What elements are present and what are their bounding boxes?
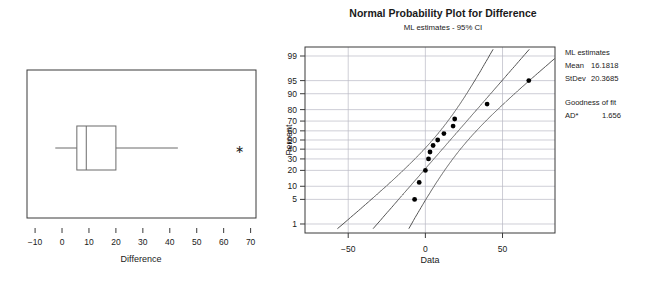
boxplot-outlier-marker: ∗ — [235, 143, 244, 155]
probplot-x-ticks — [348, 233, 502, 238]
legend-heading: ML estimates — [565, 48, 610, 57]
probplot-legend: ML estimates Mean 16.1818 StDev 20.3685 … — [565, 48, 621, 120]
probplot-y-tick-label: 20 — [288, 165, 298, 175]
probplot-data-point — [431, 143, 436, 148]
legend-mean-label: Mean — [565, 61, 584, 70]
probplot-y-tick-label: 10 — [288, 181, 298, 191]
probplot-gridlines — [305, 47, 555, 233]
probplot-data-point — [451, 124, 456, 129]
probplot-y-tick-label: 5 — [292, 194, 297, 204]
probplot-data-point — [485, 102, 490, 107]
probplot-data-point — [426, 157, 431, 162]
probplot-fit-curves — [337, 49, 554, 228]
probplot-data-point — [412, 197, 417, 202]
probplot-y-ticks — [300, 56, 305, 224]
boxplot-axis-title: Difference — [121, 254, 162, 264]
legend-stdev-value: 20.3685 — [591, 74, 618, 83]
probplot-x-tick-label: 0 — [423, 244, 428, 254]
probplot-y-tick-label: 80 — [288, 105, 298, 115]
probplot-data-point — [442, 131, 447, 136]
plot-subtitle: ML estimates - 95% CI — [404, 23, 483, 32]
probability-plot-panel: Normal Probability Plot for Difference M… — [280, 0, 657, 290]
statistics-figure: −10010203040506070 ∗ Difference Normal P… — [0, 0, 657, 290]
probplot-y-tick-label: 1 — [292, 219, 297, 229]
probplot-y-tick-label: 99 — [288, 51, 298, 61]
probplot-ci-upper — [409, 59, 555, 229]
boxplot-tick-label: 40 — [165, 237, 175, 247]
boxplot-axis-tick-labels: −10010203040506070 — [28, 237, 256, 247]
probplot-y-axis-title: Percent — [284, 124, 294, 156]
boxplot-box-glyph — [55, 126, 178, 170]
probplot-ci-lower — [337, 49, 493, 228]
boxplot-axis-ticks — [35, 228, 251, 233]
probplot-x-tick-labels: −50050 — [341, 244, 508, 254]
probplot-data-point — [428, 150, 433, 155]
probplot-data-point — [423, 168, 428, 173]
probplot-data-point — [526, 78, 531, 83]
legend-ad-value: 1.656 — [602, 111, 621, 120]
probplot-data-point — [452, 117, 457, 122]
page-title: Normal Probability Plot for Difference — [349, 7, 536, 19]
probplot-data-point — [417, 180, 422, 185]
probplot-ml-fit-line — [373, 49, 529, 228]
boxplot-tick-label: 30 — [138, 237, 148, 247]
boxplot-tick-label: −10 — [28, 237, 43, 247]
probplot-y-tick-label: 90 — [288, 89, 298, 99]
legend-fit-heading: Goodness of fit — [565, 98, 617, 107]
boxplot-tick-label: 50 — [192, 237, 202, 247]
probplot-x-tick-label: −50 — [341, 244, 356, 254]
boxplot-iqr-box — [77, 126, 116, 170]
legend-stdev-label: StDev — [565, 74, 586, 83]
boxplot-panel: −10010203040506070 ∗ Difference — [0, 0, 290, 290]
probplot-x-tick-label: 50 — [498, 244, 508, 254]
boxplot-tick-label: 20 — [111, 237, 121, 247]
boxplot-tick-label: 70 — [246, 237, 256, 247]
legend-mean-value: 16.1818 — [591, 61, 618, 70]
probplot-data-point — [435, 138, 440, 143]
boxplot-tick-label: 10 — [84, 237, 94, 247]
legend-ad-label: AD* — [565, 111, 579, 120]
boxplot-tick-label: 60 — [219, 237, 229, 247]
boxplot-tick-label: 0 — [60, 237, 65, 247]
boxplot-frame — [27, 70, 256, 218]
probplot-x-axis-title: Data — [420, 255, 439, 265]
boxplot-outliers: ∗ — [235, 143, 244, 155]
probplot-y-tick-label: 95 — [288, 76, 298, 86]
